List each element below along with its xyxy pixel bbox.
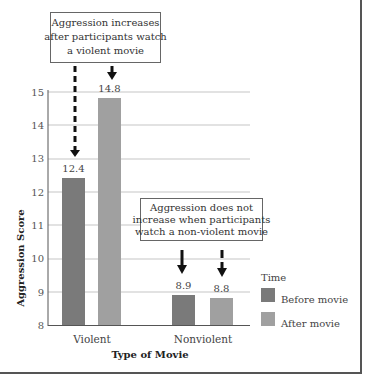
bar-chart: 8 9 10 11 12 13 14 15 Aggression Score 1… [0, 0, 366, 379]
svg-text:Time: Time [261, 272, 286, 283]
value-label: 12.4 [62, 163, 84, 174]
arrowhead-icon [177, 265, 187, 274]
value-label: 8.9 [176, 280, 192, 291]
category-label-violent: Violent [72, 333, 111, 345]
svg-text:11: 11 [31, 220, 44, 231]
legend: Time Before movie After movie [261, 272, 348, 329]
svg-text:a violent movie: a violent movie [67, 45, 144, 56]
bar-nonviolent-after [210, 298, 233, 325]
y-axis-title: Aggression Score [15, 209, 26, 307]
bar-nonviolent-before [172, 295, 195, 325]
svg-text:8: 8 [38, 320, 44, 331]
bar-violent-before [62, 178, 85, 325]
svg-text:after participants watch: after participants watch [44, 31, 167, 42]
x-axis-title: Type of Movie [111, 349, 188, 360]
value-label: 8.8 [214, 283, 230, 294]
svg-text:Aggression increases: Aggression increases [51, 17, 160, 28]
annotation-nonviolent: Aggression does not increase when partic… [133, 199, 271, 278]
legend-swatch-after [261, 312, 275, 326]
svg-text:10: 10 [31, 253, 44, 264]
svg-text:watch a non-violent movie: watch a non-violent movie [135, 226, 268, 237]
legend-swatch-before [261, 288, 275, 302]
svg-text:9: 9 [38, 287, 44, 298]
y-tick-labels: 8 9 10 11 12 13 14 15 [31, 87, 44, 331]
arrowhead-icon [107, 72, 117, 80]
arrowhead-icon [70, 150, 80, 157]
svg-text:13: 13 [31, 153, 44, 164]
svg-text:Before movie: Before movie [281, 294, 348, 305]
svg-text:14: 14 [31, 120, 44, 131]
arrowhead-icon [217, 268, 227, 277]
value-label: 14.8 [98, 83, 120, 94]
svg-text:After movie: After movie [280, 318, 340, 329]
svg-text:15: 15 [31, 87, 44, 98]
svg-text:Aggression does not: Aggression does not [149, 202, 253, 213]
category-label-nonviolent: Nonviolent [174, 333, 233, 345]
svg-text:12: 12 [31, 187, 44, 198]
bar-violent-after [98, 98, 121, 325]
svg-text:increase when participants: increase when participants [133, 214, 271, 225]
